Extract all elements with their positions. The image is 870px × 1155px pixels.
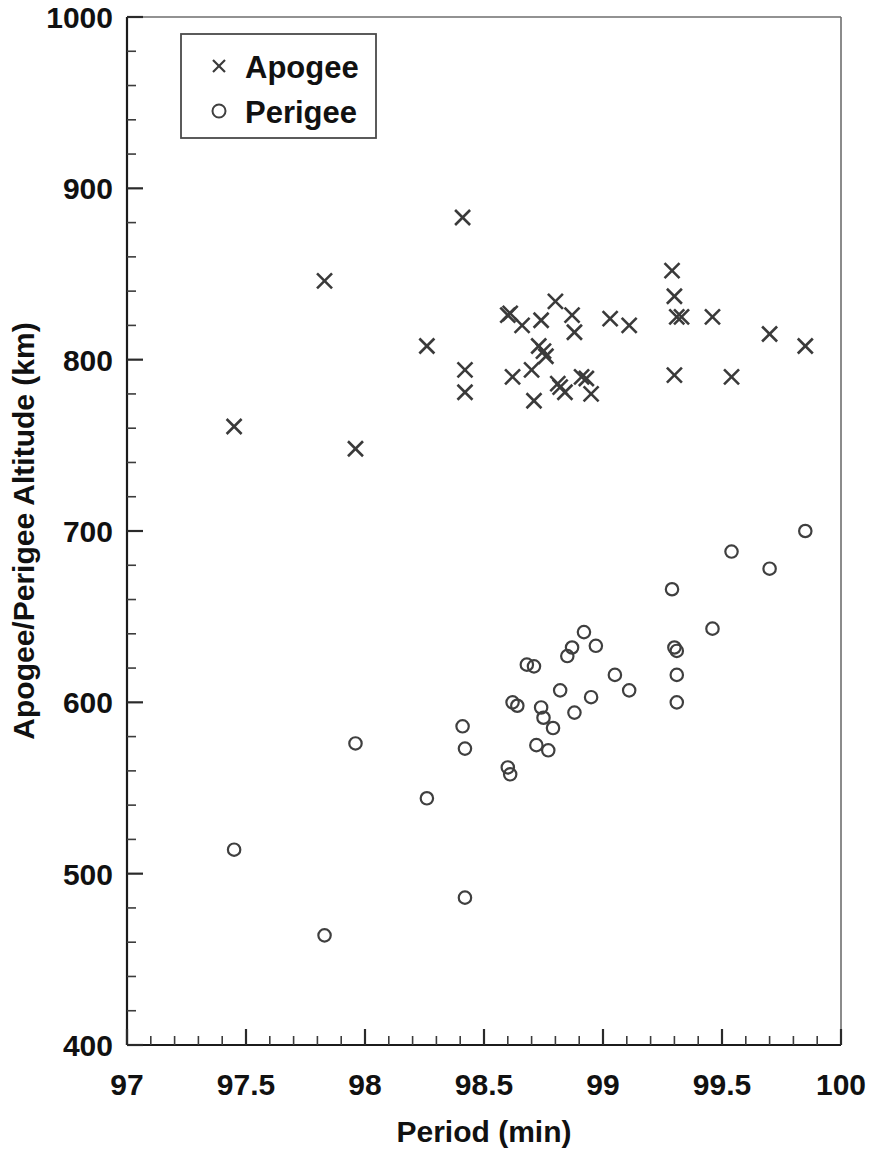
y-tick-label: 600 <box>63 686 113 719</box>
perigee-point <box>228 843 240 855</box>
perigee-point <box>568 706 580 718</box>
x-axis-tick-labels: 9797.59898.59999.5100 <box>110 1068 866 1101</box>
apogee-point <box>665 263 680 278</box>
perigee-point <box>585 691 597 703</box>
x-tick-label: 98.5 <box>455 1068 513 1101</box>
apogee-point <box>565 308 580 323</box>
x-tick-label: 98 <box>348 1068 381 1101</box>
perigee-point <box>578 626 590 638</box>
y-tick-label: 900 <box>63 172 113 205</box>
perigee-point <box>671 669 683 681</box>
plot-frame <box>127 17 841 1045</box>
apogee-point <box>667 289 682 304</box>
apogee-point <box>557 385 572 400</box>
y-tick-label: 1000 <box>46 1 113 34</box>
apogee-point <box>538 349 553 364</box>
y-tick-label: 800 <box>63 344 113 377</box>
y-tick-label: 700 <box>63 515 113 548</box>
perigee-point <box>349 737 361 749</box>
apogee-point <box>526 393 541 408</box>
apogee-point <box>348 441 363 456</box>
x-axis-title: Period (min) <box>396 1115 571 1148</box>
series-perigee-markers <box>228 525 812 942</box>
apogee-point <box>536 344 551 359</box>
perigee-point <box>799 525 811 537</box>
perigee-point <box>459 891 471 903</box>
apogee-point <box>567 325 582 340</box>
perigee-point <box>590 640 602 652</box>
perigee-point <box>318 929 330 941</box>
y-tick-label: 400 <box>63 1029 113 1062</box>
apogee-point <box>524 362 539 377</box>
perigee-point <box>547 722 559 734</box>
perigee-point <box>763 562 775 574</box>
legend-label-apogee: Apogee <box>245 50 359 85</box>
perigee-point <box>528 660 540 672</box>
apogee-point <box>457 385 472 400</box>
apogee-point <box>534 313 549 328</box>
apogee-point <box>798 338 813 353</box>
apogee-point <box>762 326 777 341</box>
apogee-point <box>705 309 720 324</box>
perigee-point <box>725 545 737 557</box>
x-tick-label: 97.5 <box>217 1068 275 1101</box>
apogee-point <box>515 318 530 333</box>
apogee-point <box>227 419 242 434</box>
apogee-point <box>603 311 618 326</box>
apogee-point <box>419 338 434 353</box>
perigee-point <box>666 583 678 595</box>
apogee-point <box>622 318 637 333</box>
perigee-point <box>456 720 468 732</box>
legend: Apogee Perigee <box>181 34 376 138</box>
perigee-point <box>554 684 566 696</box>
y-tick-label: 500 <box>63 858 113 891</box>
apogee-point <box>667 368 682 383</box>
perigee-point <box>671 645 683 657</box>
perigee-point <box>542 744 554 756</box>
scatter-chart-figure: 4005006007008009001000 9797.59898.59999.… <box>0 0 870 1155</box>
x-axis-ticks <box>127 1029 841 1045</box>
legend-label-perigee: Perigee <box>245 95 357 130</box>
perigee-point <box>671 696 683 708</box>
apogee-point <box>724 369 739 384</box>
y-axis-tick-labels: 4005006007008009001000 <box>46 1 113 1062</box>
apogee-point <box>584 386 599 401</box>
plot-svg: 4005006007008009001000 9797.59898.59999.… <box>0 0 870 1155</box>
apogee-point <box>548 294 563 309</box>
perigee-point <box>623 684 635 696</box>
perigee-point <box>459 742 471 754</box>
apogee-point <box>505 369 520 384</box>
perigee-point <box>609 669 621 681</box>
x-tick-label: 99 <box>586 1068 619 1101</box>
x-tick-label: 97 <box>110 1068 143 1101</box>
perigee-point <box>530 739 542 751</box>
apogee-point <box>457 362 472 377</box>
apogee-point <box>317 273 332 288</box>
x-tick-label: 99.5 <box>693 1068 751 1101</box>
perigee-point <box>706 622 718 634</box>
perigee-point <box>421 792 433 804</box>
y-axis-title: Apogee/Perigee Altitude (km) <box>7 322 40 739</box>
y-axis-ticks <box>127 17 143 1045</box>
x-tick-label: 100 <box>816 1068 866 1101</box>
apogee-point <box>455 210 470 225</box>
series-apogee-markers <box>227 210 813 456</box>
